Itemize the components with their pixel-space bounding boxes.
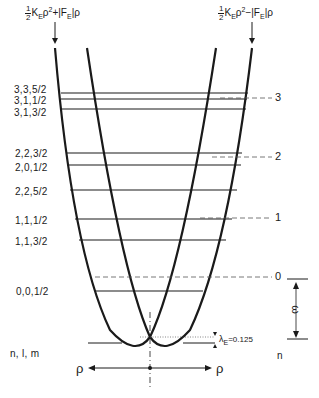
f-tail: |ρ (72, 7, 80, 18)
left-potential-formula: 12KEρ2+|FE|ρ (25, 5, 80, 22)
omega-label: ω (290, 305, 301, 314)
level-label: 3,3,5/2 (14, 85, 47, 95)
n-label: 2 (275, 151, 281, 162)
level-label: 2,2,3/2 (15, 149, 48, 159)
rho-right-label: ρ (216, 362, 223, 375)
fine-structure-levels (61, 93, 248, 291)
lambda-value: =0.125 (228, 335, 253, 344)
level-label: 3,1,3/2 (14, 108, 47, 118)
nlm-header: n, l, m (10, 349, 39, 359)
level-label: 2,2,5/2 (15, 187, 48, 197)
n-label: 0 (275, 271, 281, 282)
level-label: 1,1,3/2 (15, 237, 48, 247)
n-header: n (277, 351, 283, 361)
n-label: 3 (275, 92, 281, 103)
rho-left-label: ρ (76, 362, 83, 375)
energy-level-diagram (0, 0, 319, 398)
level-label: 3,1,1/2 (14, 96, 47, 106)
level-label: 2,0,1/2 (15, 163, 48, 173)
f-symbol: |F (251, 7, 260, 18)
level-label: 0,0,1/2 (16, 287, 49, 297)
n-levels-dashed (95, 98, 272, 277)
f-symbol: |F (58, 7, 67, 18)
lambda-label: λE=0.125 (219, 335, 253, 346)
level-label: 1,1,1/2 (15, 216, 48, 226)
f-tail: |ρ (265, 7, 273, 18)
n-label: 1 (275, 212, 281, 223)
right-potential-formula: 12KEρ2−|FE|ρ (218, 5, 273, 22)
